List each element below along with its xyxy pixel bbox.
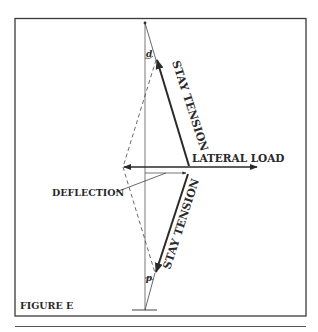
upper-stay-label: STAY TENSION xyxy=(169,59,211,153)
deflection-label: DEFLECTION xyxy=(52,187,124,198)
lower-stay-label: STAY TENSION xyxy=(160,177,202,271)
angle-label-top: d xyxy=(146,49,153,59)
figure-caption: FIGURE E xyxy=(20,300,73,311)
figure-e-diagram: STAY TENSION STAY TENSION LATERAL LOAD D… xyxy=(0,0,318,332)
lateral-load-label: LATERAL LOAD xyxy=(192,152,284,164)
angle-label-bottom: d xyxy=(145,274,152,284)
